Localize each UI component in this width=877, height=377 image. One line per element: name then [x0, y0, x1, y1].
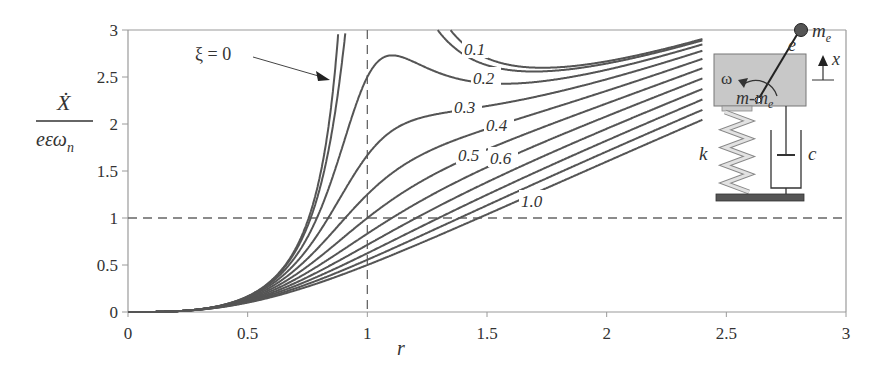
- label-xi-0.4: 0.4: [486, 116, 508, 135]
- y-label-numerator: Ẋ: [56, 90, 72, 115]
- displacement-arrow-icon: [818, 55, 828, 66]
- chart: 00.511.522.53 00.511.522.53 0.1 0.2 0.3 …: [0, 0, 877, 377]
- curves: [128, 30, 702, 312]
- system-diagram: ω e me m-me x k c: [699, 20, 840, 201]
- mass-label-sub: e: [768, 97, 774, 111]
- eccentricity-label: e: [788, 35, 796, 55]
- annotation-xi-0: ξ = 0: [195, 44, 330, 81]
- label-xi-0.2: 0.2: [473, 69, 495, 88]
- y-label-denominator: eεω: [36, 128, 67, 150]
- x-tick-label: 2: [602, 324, 611, 343]
- ground: [716, 194, 804, 201]
- x-tick-label: 3: [842, 324, 851, 343]
- label-xi-0.1: 0.1: [464, 40, 485, 59]
- curve-xi-1: [128, 120, 702, 312]
- annotation-xi-0-text: ξ = 0: [195, 44, 231, 64]
- spring-label: k: [699, 143, 708, 164]
- eccentric-mass-ball: [795, 24, 808, 37]
- curve-xi-0.6: [128, 78, 702, 312]
- curve-xi-0.2: [128, 44, 702, 312]
- curve-xi-0.3: [128, 51, 702, 312]
- eccentric-mass-sub: e: [826, 31, 832, 45]
- y-axis-label: Ẋ eεωn: [36, 90, 93, 155]
- x-axis-label: r: [397, 337, 405, 359]
- curve-xi-0: [128, 34, 338, 312]
- damper-label: c: [808, 143, 817, 164]
- label-xi-0.5: 0.5: [458, 146, 479, 165]
- curve-xi-0.8: [128, 100, 702, 313]
- omega-label: ω: [721, 69, 732, 88]
- svg-text:me: me: [812, 20, 832, 45]
- y-tick-label: 0.5: [97, 256, 118, 275]
- curve-xi-0.5: [128, 68, 702, 312]
- x-axis-ticks: 00.511.522.53: [124, 312, 851, 343]
- svg-text:eεωn: eεωn: [36, 128, 74, 155]
- arrow-head-icon: [316, 71, 330, 81]
- y-tick-label: 1.5: [97, 162, 118, 181]
- x-tick-label: 0.5: [237, 324, 258, 343]
- y-axis-ticks: 00.511.522.53: [97, 21, 128, 322]
- label-xi-1.0: 1.0: [521, 192, 543, 211]
- eccentric-mass-label: m: [812, 20, 826, 41]
- x-tick-label: 0: [124, 324, 133, 343]
- y-tick-label: 2.5: [97, 68, 118, 87]
- y-label-subscript: n: [67, 140, 74, 155]
- curve-xi-0.9: [128, 110, 702, 312]
- x-tick-label: 1.5: [476, 324, 497, 343]
- mass-label: m-m: [736, 88, 768, 108]
- y-tick-label: 3: [110, 21, 119, 40]
- curve-labels: 0.1 0.2 0.3 0.4 0.5 0.6 1.0: [452, 38, 549, 211]
- y-tick-label: 1: [110, 209, 119, 228]
- x-tick-label: 2.5: [716, 324, 737, 343]
- svg-text:ξ = 0: ξ = 0: [195, 44, 231, 64]
- label-xi-0.3: 0.3: [454, 98, 475, 117]
- curve-xi-0.7: [128, 89, 702, 312]
- y-tick-label: 0: [110, 303, 119, 322]
- y-tick-label: 2: [110, 115, 119, 134]
- x-tick-label: 1: [363, 324, 372, 343]
- displacement-label: x: [831, 49, 840, 69]
- label-xi-0.6: 0.6: [490, 149, 512, 168]
